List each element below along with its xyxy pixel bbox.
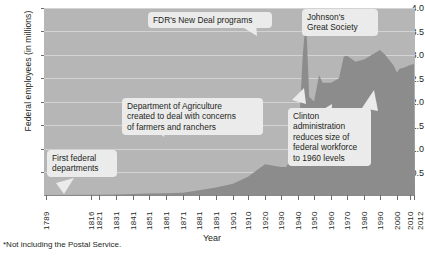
callout-line: administration: [293, 121, 366, 131]
x-tick-label-1910: 1910: [244, 202, 253, 230]
callout-line: FDR's New Deal programs: [153, 15, 267, 25]
x-tick-label-1940: 1940: [294, 202, 303, 230]
x-tick-label-1930: 1930: [277, 202, 286, 230]
x-tick-mark: [46, 195, 47, 200]
x-tick-mark: [248, 195, 249, 200]
callout-line: Clinton: [293, 111, 366, 121]
callout-line: departments: [52, 163, 112, 173]
x-tick-label-1980: 1980: [360, 202, 369, 230]
callout-johnsons-great-society: Johnson's Great Society: [302, 9, 378, 36]
x-tick-mark: [99, 195, 100, 200]
x-tick-mark: [397, 195, 398, 200]
x-tick-mark: [233, 195, 234, 200]
x-tick-mark: [116, 195, 117, 200]
x-tick-label-1831: 1831: [112, 202, 121, 230]
x-tick-mark: [380, 195, 381, 200]
x-tick-mark: [414, 195, 415, 200]
x-tick-mark: [364, 195, 365, 200]
x-tick-label-1920: 1920: [261, 202, 270, 230]
x-tick-mark: [149, 195, 150, 200]
callout-line: of farmers and ranchers: [127, 122, 258, 132]
x-tick-label-1841: 1841: [129, 202, 138, 230]
x-tick-mark: [216, 195, 217, 200]
x-tick-label-1901: 1901: [229, 202, 238, 230]
callout-line: Great Society: [307, 22, 373, 32]
x-tick-label-1891: 1891: [212, 202, 221, 230]
callout-line: First federal: [52, 153, 112, 163]
x-tick-mark: [199, 195, 200, 200]
x-tick-mark: [133, 195, 134, 200]
x-tick-label-1871: 1871: [179, 202, 188, 230]
callout-fdr-new-deal: FDR's New Deal programs: [148, 12, 272, 28]
x-tick-label-1881: 1881: [195, 202, 204, 230]
callout-line: Johnson's: [307, 12, 373, 22]
callout-line: created to deal with concerns: [127, 111, 258, 121]
x-tick-label-1960: 1960: [327, 202, 336, 230]
x-tick-label-1789: 1789: [42, 202, 51, 230]
x-tick-mark: [331, 195, 332, 200]
callout-clinton-administration: Clinton administration reduces size of f…: [288, 108, 371, 166]
callout-first-federal-departments: First federal departments: [47, 150, 117, 177]
x-tick-mark: [347, 195, 348, 200]
x-tick-mark: [298, 195, 299, 200]
x-tick-label-2000: 2000: [393, 202, 402, 230]
x-tick-label-1821: 1821: [95, 202, 104, 230]
x-tick-label-1861: 1861: [162, 202, 171, 230]
x-tick-mark: [183, 195, 184, 200]
callout-line: reduces size of: [293, 132, 366, 142]
x-tick-label-2012: 2012: [416, 202, 425, 230]
x-tick-mark: [410, 195, 411, 200]
x-tick-label-1970: 1970: [343, 202, 352, 230]
chart-footnote: *Not including the Postal Service.: [3, 240, 121, 249]
callout-line: Department of Agriculture: [127, 101, 258, 111]
x-tick-label-1851: 1851: [145, 202, 154, 230]
x-tick-mark: [91, 195, 92, 200]
x-tick-mark: [314, 195, 315, 200]
x-tick-label-1990: 1990: [376, 202, 385, 230]
callout-line: federal workforce: [293, 142, 366, 152]
x-tick-mark: [265, 195, 266, 200]
x-tick-mark: [166, 195, 167, 200]
callout-department-of-agriculture: Department of Agriculture created to dea…: [122, 98, 263, 135]
x-tick-mark: [281, 195, 282, 200]
callout-line: to 1960 levels: [293, 153, 366, 163]
x-tick-label-1950: 1950: [310, 202, 319, 230]
x-tick-label-2010: 2010: [406, 202, 415, 230]
y-axis-title: Federal employees (in millions): [23, 0, 33, 151]
